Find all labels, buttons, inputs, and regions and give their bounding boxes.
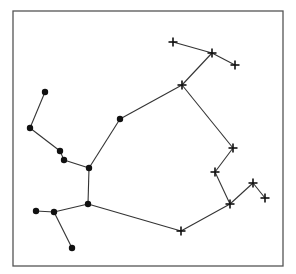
edge-d7-d8 [54,204,88,212]
plus-nodes-group [169,38,270,236]
edge-p5-p6 [215,148,233,172]
edge-d1-d2 [30,92,45,128]
edge-d8-d10 [54,212,72,248]
edge-p7-p8 [230,183,253,204]
plus-node-icon [169,38,178,47]
dot-node-icon [57,148,63,154]
edge-p2-p4 [182,53,212,85]
dot-node-icon [42,89,48,95]
tree-diagram [0,0,296,274]
dot-node-icon [85,201,91,207]
dot-node-icon [51,209,57,215]
edge-d4-d5 [64,160,89,168]
dot-nodes-group [27,89,123,251]
dot-node-icon [33,208,39,214]
edge-d2-d3 [30,128,60,151]
dot-node-icon [27,125,33,131]
edge-p8-p9 [253,183,265,198]
edges-group [30,42,265,248]
dot-node-icon [86,165,92,171]
plus-node-icon [177,227,186,236]
dot-node-icon [117,116,123,122]
edge-d6-p4 [120,85,182,119]
dot-node-icon [61,157,67,163]
edge-p4-p5 [182,85,233,148]
edge-p6-p7 [215,172,230,204]
edge-p2-p3 [212,53,235,65]
edge-d7-p10 [88,204,181,231]
edge-p7-p10 [181,204,230,231]
edge-p1-p2 [173,42,212,53]
dot-node-icon [69,245,75,251]
diagram-frame [13,11,283,266]
edge-d5-d6 [89,119,120,168]
plus-node-icon [211,168,220,177]
edge-d5-d7 [88,168,89,204]
plus-node-icon [231,61,240,70]
